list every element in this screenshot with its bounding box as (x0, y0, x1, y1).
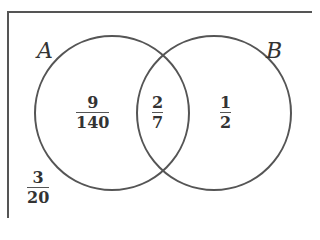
set-b-label: B (266, 38, 282, 63)
numerator: 1 (220, 94, 231, 111)
region-intersection: 2 7 (152, 94, 163, 131)
set-a-label: A (37, 38, 53, 63)
denominator: 140 (76, 114, 109, 131)
region-outside: 3 20 (27, 169, 49, 206)
numerator: 2 (152, 94, 163, 111)
numerator: 9 (87, 94, 98, 111)
denominator: 2 (220, 114, 231, 131)
numerator: 3 (33, 169, 44, 186)
region-b-only: 1 2 (220, 94, 231, 131)
set-a-circle (35, 36, 189, 190)
denominator: 7 (152, 114, 163, 131)
region-a-only: 9 140 (76, 94, 109, 131)
denominator: 20 (27, 189, 49, 206)
